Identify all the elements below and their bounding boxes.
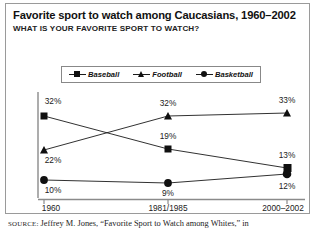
figure-border	[5, 3, 310, 214]
legend-item-baseball[interactable]: Baseball	[69, 70, 119, 79]
data-label-baseball-1960: 32%	[45, 96, 62, 106]
data-label-basketball-2000: 12%	[279, 181, 296, 191]
data-label-football-2000: 33%	[279, 95, 296, 105]
x-axis-label-1960: 1960	[42, 203, 60, 213]
x-axis-label-1981-1985: 1981/1985	[148, 203, 187, 213]
legend-marker-square-icon	[69, 71, 86, 78]
legend-label-baseball: Baseball	[88, 70, 119, 79]
source-note: SOURCE: Jeffrey M. Jones, “Favorite Spor…	[8, 219, 308, 229]
data-label-basketball-1960: 10%	[45, 185, 62, 195]
legend-marker-triangle-icon	[133, 71, 150, 78]
legend-label-football: Football	[152, 70, 182, 79]
data-label-baseball-2000: 13%	[279, 150, 296, 160]
data-label-football-1981: 32%	[160, 98, 177, 108]
chart-legend: Baseball Football Basketball	[61, 66, 261, 83]
source-prefix: SOURCE:	[8, 220, 39, 227]
x-axis-label-2000-2002: 2000–2002	[262, 203, 304, 213]
chart-subtitle: WHAT IS YOUR FAVORITE SPORT TO WATCH?	[13, 24, 199, 33]
source-text: Jeffrey M. Jones, “Favorite Sport to Wat…	[39, 219, 249, 228]
legend-marker-circle-icon	[196, 71, 213, 78]
chart-figure: Favorite sport to watch among Caucasians…	[0, 0, 315, 238]
data-label-baseball-1981: 19%	[160, 131, 177, 141]
legend-label-basketball: Basketball	[215, 70, 253, 79]
data-label-basketball-1981: 9%	[162, 188, 174, 198]
data-label-football-1960: 22%	[45, 155, 62, 165]
page-title: Favorite sport to watch among Caucasians…	[13, 9, 296, 21]
legend-item-basketball[interactable]: Basketball	[196, 70, 253, 79]
legend-item-football[interactable]: Football	[133, 70, 182, 79]
